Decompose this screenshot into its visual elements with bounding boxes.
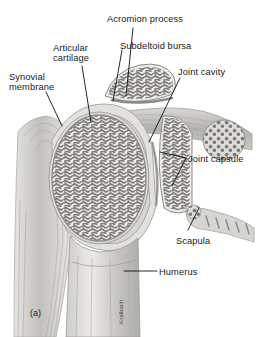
label-subdeltoid-bursa: Subdeltoid bursa	[120, 41, 191, 51]
label-synovial-membrane: Synovial membrane	[9, 72, 54, 93]
figure-number: (a)	[30, 308, 41, 318]
label-scapula: Scapula	[176, 236, 210, 246]
label-acromion-process: Acromion process	[107, 14, 183, 24]
label-joint-cavity: Joint cavity	[178, 67, 225, 77]
label-joint-capsule: Joint capsule	[188, 154, 244, 164]
label-humerus: Humerus	[159, 267, 197, 277]
label-articular-cartilage: Articular cartilage	[53, 43, 89, 64]
figure-shoulder-joint: Acromion process Subdeltoid bursa Articu…	[0, 0, 257, 337]
artist-signature: Kralbach	[117, 300, 124, 324]
